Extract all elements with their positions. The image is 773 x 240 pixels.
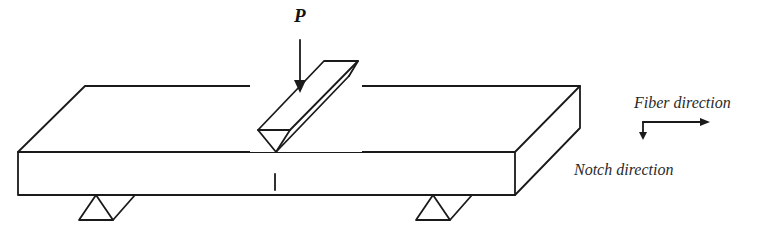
arrow-down-icon: [639, 132, 647, 140]
beam-front-face: [18, 152, 515, 195]
arrow-right-icon: [700, 118, 710, 126]
beam-right-face: [515, 86, 580, 195]
fiber-direction-label: Fiber direction: [633, 94, 731, 111]
notch-direction-label: Notch direction: [573, 161, 673, 178]
left-support: [79, 195, 135, 220]
load-label: P: [293, 5, 306, 26]
right-support: [416, 195, 472, 220]
direction-axes: Fiber direction Notch direction: [573, 94, 731, 178]
loading-wedge: [250, 60, 362, 152]
three-point-bending-diagram: P Fiber direction Notch direction: [0, 0, 773, 240]
